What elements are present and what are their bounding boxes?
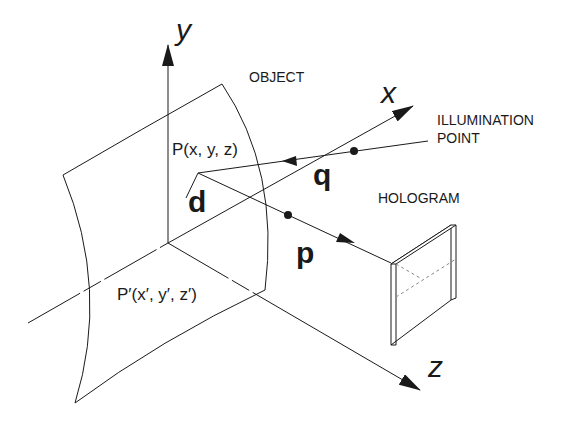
hologram-geometry-diagram: y x z OBJECT ILLUMINATION POINT HOLOGRAM… xyxy=(0,0,583,426)
vector-q-label: q xyxy=(313,158,331,191)
ray-p-dot xyxy=(284,211,292,219)
x-axis-label: x xyxy=(379,76,397,109)
z-axis xyxy=(168,243,420,390)
illumination-point-dot xyxy=(350,147,358,155)
illumination-label-line2: POINT xyxy=(437,130,480,146)
object-ray-p xyxy=(198,173,391,263)
point-p-label: P(x, y, z) xyxy=(172,140,238,159)
vector-d-label: d xyxy=(188,185,206,218)
vector-p-label: p xyxy=(296,236,314,269)
point-p-prime-label: P′(x′, y′, z′) xyxy=(117,285,197,304)
z-axis-label: z xyxy=(427,350,443,383)
hologram-label: HOLOGRAM xyxy=(378,190,460,206)
illumination-label-line1: ILLUMINATION xyxy=(437,112,534,128)
x-axis xyxy=(168,106,413,243)
y-axis-label: y xyxy=(174,13,193,46)
x-axis-back xyxy=(28,243,168,323)
object-surface xyxy=(63,84,268,403)
object-label: OBJECT xyxy=(249,69,305,85)
p-arrowhead xyxy=(336,233,355,243)
q-arrowhead xyxy=(282,156,297,166)
hologram-plate xyxy=(391,225,456,345)
